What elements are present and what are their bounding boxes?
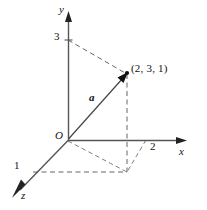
terminal-point-marker (125, 71, 129, 75)
axis-y-tick-label-3: 3 (54, 31, 60, 42)
axis-z-tick-label-1: 1 (14, 160, 20, 171)
guide-origin-to-base-diagonal (68, 141, 127, 172)
axis-x-tick-label-2: 2 (150, 141, 156, 152)
vector-a-line (69, 78, 124, 139)
axis-z-label: z (21, 190, 25, 201)
point-coordinate-label: (2, 3, 1) (131, 63, 168, 74)
axis-x-label: x (179, 146, 184, 157)
projection-guides (33, 40, 146, 172)
vector-a-label: a (89, 92, 95, 103)
position-vector-a (69, 72, 129, 139)
origin-label: O (55, 130, 63, 141)
guide-y-tick-to-point (68, 40, 127, 74)
axis-z-line (20, 141, 68, 191)
guide-x-tick-to-base (127, 140, 146, 172)
axis-y-arrowhead (65, 11, 72, 22)
coordinate-figure: y 3 x 2 z 1 O a (2, 3, 1) (0, 0, 207, 210)
axis-y (65, 11, 73, 141)
axis-x-arrowhead (176, 137, 187, 144)
figure-canvas (0, 0, 207, 210)
axis-y-label: y (59, 4, 64, 15)
